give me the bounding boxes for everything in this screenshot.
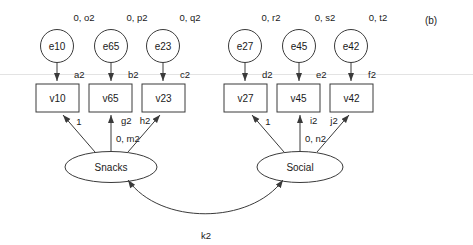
diagram-canvas: e10 0, o2 e65 0, p2 e23 0, q2 e27 0, r2 …	[0, 0, 473, 245]
latent-variance-label-snacks: 0, m2	[116, 133, 140, 144]
indicator-node-v65: v65	[89, 84, 132, 112]
error-node-e42: e42 0, t2	[335, 12, 388, 63]
panel-label: (b)	[425, 15, 437, 26]
error-variance-label-e27: 0, r2	[261, 12, 280, 23]
error-variance-label-e10: 0, o2	[73, 12, 94, 23]
indicator-node-v42: v42	[330, 84, 373, 112]
error-label-e45: e45	[291, 41, 308, 52]
indicator-label-v23: v23	[155, 93, 172, 104]
error-node-e23: e23 0, q2	[147, 12, 201, 63]
intercept-label-v27: d2	[262, 69, 273, 80]
loading-label-v42: j2	[329, 115, 337, 126]
indicator-node-v27: v27	[224, 84, 267, 112]
error-node-e65: e65 0, p2	[95, 12, 148, 63]
latent-node-social: Social	[257, 152, 343, 183]
latent-label-social: Social	[286, 162, 313, 173]
error-variance-label-e45: 0, s2	[315, 12, 336, 23]
indicator-label-v65: v65	[102, 93, 119, 104]
intercept-label-v42: f2	[368, 69, 376, 80]
error-node-e10: e10 0, o2	[41, 12, 95, 63]
indicator-node-v23: v23	[142, 84, 185, 112]
covariance-curve-snacks-social	[128, 180, 283, 214]
loading-label-v65: g2	[121, 115, 132, 126]
intercept-label-v65: b2	[128, 69, 139, 80]
loading-label-v27: 1	[265, 116, 270, 127]
indicator-node-v45: v45	[277, 84, 320, 112]
indicator-label-v42: v42	[343, 93, 360, 104]
error-label-e10: e10	[49, 41, 66, 52]
intercept-label-v23: c2	[180, 69, 190, 80]
latent-node-snacks: Snacks	[65, 152, 157, 183]
error-label-e23: e23	[155, 41, 172, 52]
intercept-label-v10: a2	[74, 69, 85, 80]
indicator-node-v10: v10	[36, 84, 79, 112]
error-label-e27: e27	[237, 41, 254, 52]
covariance-label-k2: k2	[201, 230, 211, 241]
error-variance-label-e23: 0, q2	[179, 12, 200, 23]
error-node-e45: e45 0, s2	[283, 12, 336, 63]
error-variance-label-e42: 0, t2	[369, 12, 388, 23]
path-diagram: e10 0, o2 e65 0, p2 e23 0, q2 e27 0, r2 …	[0, 0, 473, 245]
latent-variance-label-social: 0, n2	[305, 133, 326, 144]
loading-label-v10: 1	[76, 116, 81, 127]
indicator-label-v45: v45	[290, 93, 307, 104]
latent-label-snacks: Snacks	[95, 162, 128, 173]
error-label-e42: e42	[343, 41, 360, 52]
error-label-e65: e65	[103, 41, 120, 52]
indicator-label-v27: v27	[237, 93, 254, 104]
intercept-label-v45: e2	[316, 69, 327, 80]
loading-label-v23: h2	[140, 115, 151, 126]
indicator-label-v10: v10	[49, 93, 66, 104]
error-variance-label-e65: 0, p2	[126, 12, 147, 23]
error-node-e27: e27 0, r2	[229, 12, 281, 63]
loading-label-v45: i2	[310, 115, 317, 126]
